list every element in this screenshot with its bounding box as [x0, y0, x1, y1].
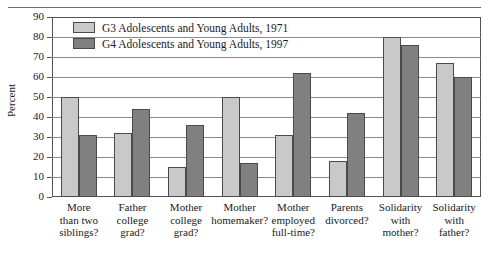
bar-g3-1 — [114, 133, 132, 197]
bar-g4-4 — [293, 73, 311, 197]
y-tick-0 — [47, 197, 52, 198]
legend-label-g3: G3 Adolescents and Young Adults, 1971 — [102, 22, 288, 34]
bar-g4-1 — [132, 109, 150, 197]
bar-g3-4 — [275, 135, 293, 197]
y-tick-label-70: 70 — [18, 51, 44, 62]
bar-g4-7 — [454, 77, 472, 197]
legend-swatch-icon-g4 — [73, 38, 95, 49]
bar-chart-figure: 0102030405060708090 Percent G3 Adolescen… — [0, 0, 489, 254]
x-label-line: full-time? — [261, 226, 327, 239]
header-divider-rule — [8, 7, 481, 8]
bar-g3-7 — [436, 63, 454, 197]
bar-g3-3 — [222, 97, 240, 197]
legend-label-g4: G4 Adolescents and Young Adults, 1997 — [102, 38, 288, 50]
bar-g4-0 — [79, 135, 97, 197]
bar-g4-3 — [240, 163, 258, 197]
x-label-line: father? — [421, 226, 487, 239]
legend-item-g3: G3 Adolescents and Young Adults, 1971 — [73, 21, 288, 34]
chart-legend: G3 Adolescents and Young Adults, 1971G4 … — [73, 21, 288, 50]
y-tick-label-30: 30 — [18, 131, 44, 142]
y-tick-label-20: 20 — [18, 151, 44, 162]
y-tick-label-80: 80 — [18, 31, 44, 42]
y-tick-label-50: 50 — [18, 91, 44, 102]
bar-g4-6 — [401, 45, 419, 197]
legend-swatch-icon-g3 — [73, 22, 95, 33]
bar-g3-0 — [61, 97, 79, 197]
bar-g3-5 — [329, 161, 347, 197]
bar-g3-6 — [383, 37, 401, 197]
bar-g4-2 — [186, 125, 204, 197]
y-tick-label-90: 90 — [18, 11, 44, 22]
y-tick-label-40: 40 — [18, 111, 44, 122]
y-tick-label-0: 0 — [18, 191, 44, 202]
x-axis-category-labels: Morethan twosiblings?Fathercollegegrad?M… — [52, 201, 481, 251]
bar-g3-2 — [168, 167, 186, 197]
x-label-7: Solidaritywithfather? — [421, 201, 487, 239]
y-tick-label-60: 60 — [18, 71, 44, 82]
x-label-line: Solidarity — [421, 201, 487, 214]
y-axis-title: Percent — [6, 71, 17, 131]
y-tick-label-10: 10 — [18, 171, 44, 182]
x-label-line: grad? — [153, 226, 219, 239]
bar-g4-5 — [347, 113, 365, 197]
x-label-line: with — [421, 214, 487, 227]
legend-item-g4: G4 Adolescents and Young Adults, 1997 — [73, 37, 288, 50]
